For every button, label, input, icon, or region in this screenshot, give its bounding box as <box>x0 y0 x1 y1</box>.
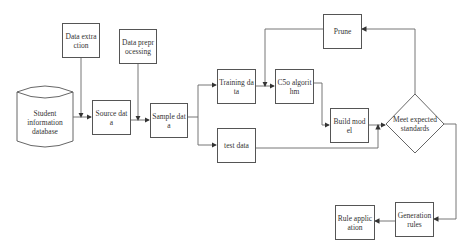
build-model-box: Build model <box>330 108 369 143</box>
source-data-box: Source data <box>92 100 131 135</box>
sample-data-box: Sample data <box>150 103 188 138</box>
rule-application-box: Rule application <box>335 205 375 240</box>
c5o-algorithm-box: C5o algorithm <box>275 69 314 104</box>
meet-standards-label: Meet expected standards <box>392 108 438 140</box>
generation-rules-box: Generation rules <box>395 202 434 237</box>
prune-box: Prune <box>323 14 362 49</box>
data-extraction-box: Data extraction <box>62 23 100 58</box>
data-preprocessing-box: Data preprocessing <box>119 29 157 64</box>
training-data-box: Training data <box>217 69 256 104</box>
test-data-box: test data <box>217 128 256 163</box>
student-database-label: Student information database <box>17 102 73 142</box>
